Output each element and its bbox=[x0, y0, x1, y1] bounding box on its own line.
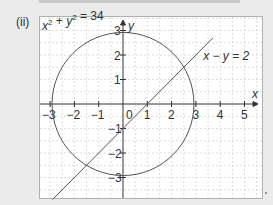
y-tick-label: −2 bbox=[108, 147, 122, 161]
axis-labels: yx0x2 + y2 = 34x − y = 2 bbox=[41, 9, 259, 122]
page-dot bbox=[265, 192, 267, 194]
x-tick-label: 1 bbox=[144, 108, 151, 122]
x-axis-arrow-icon bbox=[253, 102, 258, 107]
x-tick-label: −1 bbox=[91, 108, 105, 122]
y-tick-label: −3 bbox=[108, 171, 122, 185]
y-tick-label: −1 bbox=[108, 122, 122, 136]
x-tick-label: −2 bbox=[66, 108, 80, 122]
line-equation-label: x − y = 2 bbox=[202, 49, 249, 63]
y-tick-label: 3 bbox=[114, 24, 121, 38]
y-axis-label: y bbox=[127, 19, 135, 33]
origin-label: 0 bbox=[126, 108, 133, 122]
x-tick-label: 4 bbox=[217, 108, 224, 122]
y-tick-label: 2 bbox=[114, 49, 121, 63]
x-tick-label: 2 bbox=[168, 108, 175, 122]
chart-svg: −3−2−112345−3−2−1123 yx0x2 + y2 = 34x − … bbox=[0, 0, 273, 205]
y-axis-arrow-icon bbox=[121, 20, 126, 25]
x-tick-label: 5 bbox=[241, 108, 248, 122]
y-tick-label: 1 bbox=[114, 73, 121, 87]
x-axis-label: x bbox=[251, 87, 259, 101]
